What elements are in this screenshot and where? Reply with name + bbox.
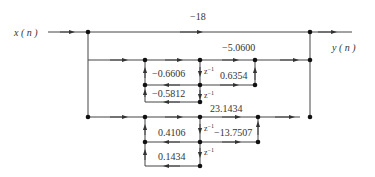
s2-feedback2: 0.1434 (158, 151, 186, 162)
s2-feedforward0: 23.1434 (210, 103, 243, 114)
output-label: y ( n ) (331, 42, 356, 54)
delay-s2-2: z−1 (204, 147, 214, 157)
s2-feedforward1: −13.7507 (214, 127, 252, 138)
nodes (86, 30, 313, 169)
delay-s1-2: z−1 (204, 90, 214, 100)
s1-feedback1: −0.6606 (152, 68, 185, 79)
direct-gain-label: −18 (190, 11, 206, 22)
s2-feedback1: 0.4106 (158, 127, 186, 138)
signal-flow-graph: x ( n ) y ( n ) −18 −5.0600 −0.6606 −0.5… (0, 0, 375, 177)
s1-feedforward1: 0.6354 (220, 70, 248, 81)
delay-s1-1: z−1 (204, 66, 214, 76)
s1-feedback2: −0.5812 (152, 88, 185, 99)
input-label: x ( n ) (13, 27, 38, 39)
delay-s2-1: z−1 (204, 123, 214, 133)
s1-forward-gain: −5.0600 (222, 42, 255, 53)
